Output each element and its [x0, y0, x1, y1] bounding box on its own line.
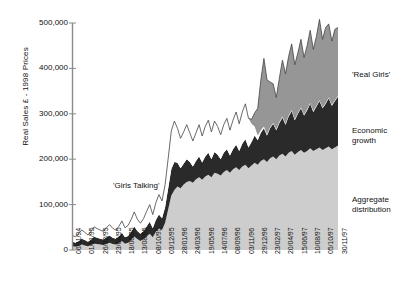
series-label-real-girls: 'Real Girls' [352, 70, 390, 80]
series-label-economic-growth: Economic growth [352, 126, 387, 145]
x-axis-tick-label: 20/04/97 [287, 228, 294, 254]
x-axis-tick-label: 08/09/96 [234, 228, 241, 254]
series-label-aggregate-distribution: Aggregate distribution [352, 195, 391, 214]
series-label-real-girls-text: 'Real Girls' [352, 70, 390, 79]
x-axis-tick-label: 23/04/95 [115, 228, 122, 254]
x-axis-tick-label: 24/03/96 [194, 228, 201, 254]
x-axis-tick-label: 06/11/94 [75, 228, 82, 254]
x-axis-tick-label: 18/06/95 [128, 228, 135, 254]
x-axis-tick-label: 08/10/95 [155, 228, 162, 254]
x-axis-tick-label: 23/02/97 [274, 228, 281, 254]
x-axis-tick-label: 28/01/96 [181, 228, 188, 254]
x-axis-tick-label: 30/11/97 [341, 228, 348, 254]
series-label-economic-growth-line2: growth [352, 136, 387, 146]
series-label-aggregate-line1: Aggregate [352, 195, 391, 205]
x-axis-tick-label: 01/01/95 [88, 228, 95, 254]
x-axis-tick-label: 13/08/95 [141, 228, 148, 254]
x-axis-tick-label: 14/07/96 [221, 228, 228, 254]
x-axis-tick-label: 15/06/97 [301, 228, 308, 254]
series-label-aggregate-line2: distribution [352, 205, 391, 215]
series-label-economic-growth-line1: Economic [352, 126, 387, 136]
y-axis-title: Real Sales £ - 1998 Prices [21, 12, 30, 182]
x-axis-tick-label: 10/08/97 [314, 228, 321, 254]
x-axis-tick-label: 03/11/96 [248, 228, 255, 254]
x-axis-tick-label: 29/12/96 [261, 228, 268, 254]
x-axis-tick-label: 26/02/95 [102, 228, 109, 254]
annotation-girls-talking: 'Girls Talking' [113, 181, 159, 190]
chart-container: 0100,000200,000300,000400,000500,000 06/… [0, 0, 401, 306]
x-axis-tick-label: 19/05/96 [208, 228, 215, 254]
x-axis-tick-label: 03/12/95 [168, 228, 175, 254]
x-axis-tick-labels: 06/11/9401/01/9526/02/9523/04/9518/06/95… [0, 0, 401, 306]
x-axis-tick-label: 05/10/97 [327, 228, 334, 254]
